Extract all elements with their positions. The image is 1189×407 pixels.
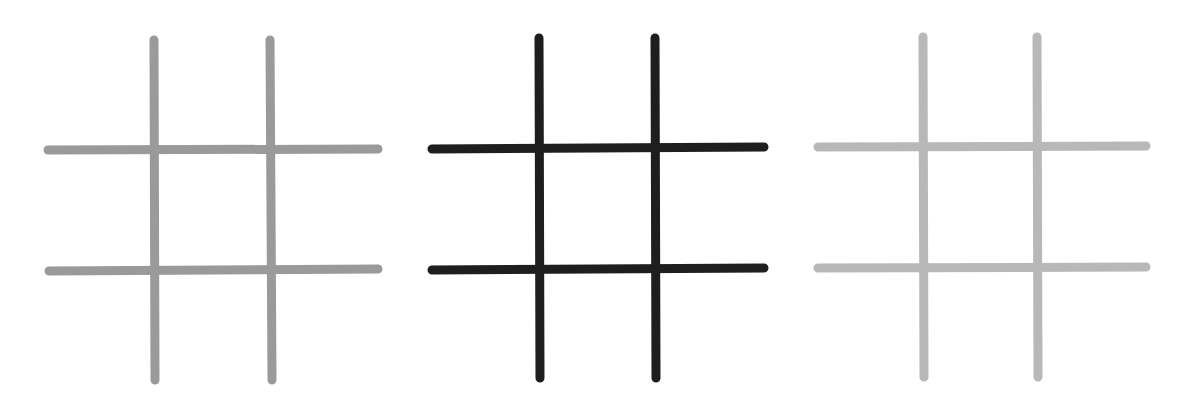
horizontal-line-2 <box>432 268 764 270</box>
grids-canvas <box>0 0 1189 407</box>
horizontal-line-2 <box>818 267 1146 268</box>
tic-tac-toe-diagram <box>0 0 1189 407</box>
vertical-line-2 <box>655 38 656 378</box>
grid-middle <box>432 38 764 378</box>
vertical-line-1 <box>539 38 540 378</box>
horizontal-line-1 <box>818 146 1146 147</box>
horizontal-line-1 <box>48 149 378 150</box>
vertical-line-2 <box>270 40 272 380</box>
horizontal-line-1 <box>432 147 764 149</box>
horizontal-line-2 <box>49 269 378 271</box>
vertical-line-2 <box>1037 37 1038 377</box>
grid-left <box>48 40 378 380</box>
grid-right <box>818 37 1146 377</box>
vertical-line-1 <box>923 37 924 377</box>
vertical-line-1 <box>154 40 155 380</box>
